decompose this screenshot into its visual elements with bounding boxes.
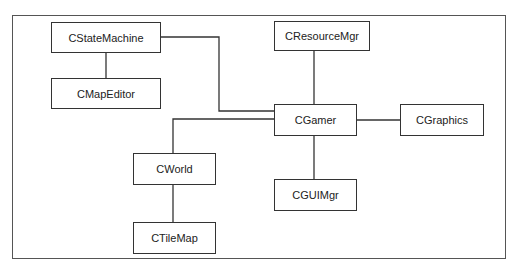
node-cmapeditor: CMapEditor [51,78,161,109]
class-diagram: CStateMachine CMapEditor CResourceMgr CG… [0,0,520,268]
edge-cgamer-cworld [173,119,274,153]
node-cgamer: CGamer [274,104,357,136]
node-cstatemachine: CStateMachine [51,22,161,53]
node-cresourcemgr: CResourceMgr [274,21,370,51]
node-cworld: CWorld [133,153,216,185]
node-cgraphics: CGraphics [400,104,484,136]
edge-cstatemachine-cgamer [161,37,274,111]
node-ctilemap: CTileMap [133,222,216,254]
node-cguimgr: CGUIMgr [274,179,357,211]
